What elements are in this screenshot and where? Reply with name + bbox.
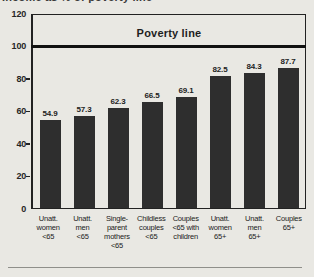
y-tick-mark-20 — [26, 176, 30, 178]
x-axis-category-label: Couples<65 withchildren — [169, 214, 203, 250]
bar — [142, 102, 163, 208]
plot-area: Poverty line 54.957.362.366.569.182.584.… — [31, 14, 306, 209]
bar-slot: 54.9 — [33, 109, 67, 208]
bar-value-label: 57.3 — [77, 105, 92, 114]
bar-slot: 66.5 — [135, 91, 169, 208]
y-tick-label-80: 80 — [0, 74, 26, 85]
x-axis-category-label: Unatt.women<65 — [31, 214, 65, 250]
bar-slot: 62.3 — [101, 97, 135, 208]
x-axis-category-label: Childlesscouples<65 — [134, 214, 168, 250]
y-tick-label-40: 40 — [0, 139, 26, 150]
bar-value-label: 82.5 — [213, 65, 228, 74]
bar — [244, 73, 265, 208]
x-axis-category-label: Single-parentmothers<65 — [100, 214, 134, 250]
y-tick-mark-60 — [26, 111, 30, 113]
y-tick-label-0: 0 — [0, 204, 26, 215]
bar-value-label: 66.5 — [145, 91, 160, 100]
x-axis-category-label: Unatt.men65+ — [237, 214, 271, 250]
x-axis-labels: Unatt.women<65Unatt.men<65Single-parentm… — [31, 214, 306, 250]
y-tick-label-20: 20 — [0, 171, 26, 182]
bar — [176, 97, 197, 208]
bar-slot: 87.7 — [271, 57, 305, 208]
bar-slot: 84.3 — [237, 62, 271, 208]
chart-title: Income as % of poverty line — [2, 0, 152, 3]
bar-slot: 82.5 — [203, 65, 237, 208]
bar — [74, 116, 95, 208]
bar-value-label: 84.3 — [247, 62, 262, 71]
bar — [108, 108, 129, 208]
y-tick-mark-80 — [26, 78, 30, 80]
bar — [40, 120, 61, 208]
y-tick-mark-40 — [26, 143, 30, 145]
bar-value-label: 54.9 — [43, 109, 58, 118]
x-axis-category-label: Couples65+ — [272, 214, 306, 250]
bar-slot: 69.1 — [169, 86, 203, 208]
chart-page: { "title_clipped": "Income as % of pover… — [0, 0, 314, 277]
bottom-rule — [8, 267, 302, 268]
bar-value-label: 87.7 — [281, 57, 296, 66]
x-axis-category-label: Unatt.men<65 — [65, 214, 99, 250]
bar-slot: 57.3 — [67, 105, 101, 208]
bar-value-label: 62.3 — [111, 97, 126, 106]
bar-chart-figure: Income as % of poverty line 020406080100… — [0, 0, 314, 277]
x-axis-category-label: Unatt.women65+ — [203, 214, 237, 250]
y-tick-label-100: 100 — [0, 41, 26, 52]
y-tick-label-120: 120 — [0, 9, 26, 20]
bar-value-label: 69.1 — [179, 86, 194, 95]
bars-container: 54.957.362.366.569.182.584.387.7 — [33, 15, 305, 208]
y-tick-label-60: 60 — [0, 106, 26, 117]
bar — [278, 68, 299, 208]
bar — [210, 76, 231, 208]
